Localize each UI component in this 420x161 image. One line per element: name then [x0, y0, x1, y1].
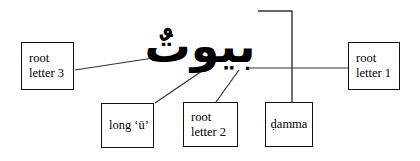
- callout-root-letter-2-line-2: letter 2: [191, 125, 226, 140]
- callout-damma-line-1: ḍamma: [271, 117, 308, 132]
- callout-root-letter-3-line-1: root: [29, 51, 49, 66]
- callout-root-letter-3-line-2: letter 3: [29, 66, 64, 81]
- arabic-word: بيوتٌ: [140, 8, 260, 84]
- connector-damma: [258, 11, 292, 102]
- callout-root-letter-2-line-1: root: [191, 110, 211, 125]
- callout-root-letter-1-line-1: root: [356, 51, 376, 66]
- callout-root-letter-1: root letter 1: [348, 42, 400, 90]
- callout-damma: ḍamma: [265, 102, 313, 147]
- callout-long-u-line-1: long ‘ū’: [109, 118, 149, 133]
- callout-long-u: long ‘ū’: [101, 103, 154, 148]
- callout-root-letter-1-line-2: letter 1: [356, 66, 391, 81]
- arabic-word-annotation-diagram: بيوتٌ root letter 3 root letter 1 long ‘…: [0, 0, 420, 161]
- callout-root-letter-2: root letter 2: [183, 102, 238, 147]
- callout-root-letter-3: root letter 3: [21, 42, 74, 90]
